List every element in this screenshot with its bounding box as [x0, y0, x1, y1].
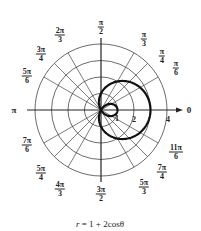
angle-label-7pi-4: 7π4	[157, 164, 167, 181]
angle-label-4pi-3: 4π3	[55, 181, 65, 198]
radial-label-4: 4	[166, 115, 170, 124]
angle-label-pi-6: π6	[173, 60, 179, 77]
angle-label-pi-2: π2	[98, 19, 104, 36]
angle-label-3pi-4: 3π4	[36, 46, 46, 63]
axis-arrow-icon	[176, 108, 183, 113]
angle-label-5pi-4: 5π4	[36, 165, 46, 182]
radial-label-2: 2	[132, 115, 136, 124]
angle-label-0: 0	[187, 105, 192, 115]
axes	[27, 38, 178, 182]
angle-label-5pi-3: 5π3	[139, 179, 149, 196]
equation-caption: r = 1 + 2cosθ	[76, 219, 124, 229]
angle-label-5pi-6: 5π6	[22, 68, 32, 85]
angle-label-pi-4: π4	[159, 48, 165, 65]
radial-label-1: 1	[115, 114, 119, 123]
angle-label-11pi-6: 11π6	[169, 144, 183, 161]
angle-label-7pi-6: 7π6	[22, 137, 32, 154]
angle-label-pi-3: π3	[141, 31, 147, 48]
angle-label-2pi-3: 2π3	[55, 27, 65, 44]
angle-label-3pi-2: 3π2	[96, 186, 106, 203]
angle-label-pi: π	[12, 105, 17, 115]
